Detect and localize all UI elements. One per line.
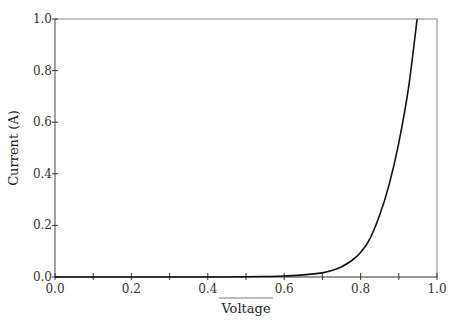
series-layer bbox=[55, 19, 417, 277]
y-axis: 0.00.20.40.60.81.0 bbox=[33, 12, 58, 284]
y-axis-title: Current (A) bbox=[6, 110, 21, 186]
y-tick-label: 0.4 bbox=[33, 167, 52, 181]
y-tick-label: 0.6 bbox=[33, 115, 52, 129]
x-tick-label: 0.4 bbox=[198, 282, 217, 296]
plot-frame bbox=[55, 19, 437, 277]
x-axis-title: Voltage bbox=[220, 301, 270, 316]
y-tick-label: 1.0 bbox=[33, 12, 52, 26]
iv-curve-chart: 0.00.20.40.60.81.0 0.00.20.40.60.81.0 Vo… bbox=[0, 0, 455, 322]
x-tick-label: 0.8 bbox=[351, 282, 370, 296]
y-tick-label: 0.8 bbox=[33, 64, 52, 78]
y-tick-label: 0.0 bbox=[33, 270, 52, 284]
x-tick-label: 0.0 bbox=[45, 282, 64, 296]
series-line-iv-curve bbox=[55, 19, 417, 277]
x-tick-label: 1.0 bbox=[427, 282, 446, 296]
x-tick-label: 0.2 bbox=[122, 282, 141, 296]
x-tick-label: 0.6 bbox=[275, 282, 294, 296]
y-tick-label: 0.2 bbox=[33, 218, 52, 232]
